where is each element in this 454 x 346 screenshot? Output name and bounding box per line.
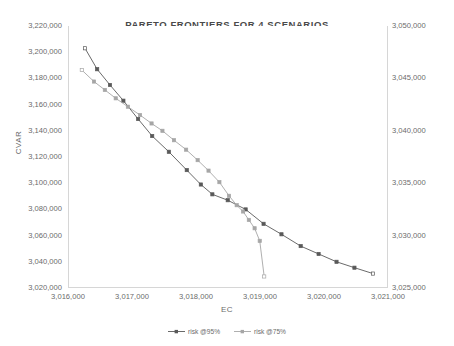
y-axis-left-tick-label: 3,200,000 [4,47,62,56]
data-point-marker [114,97,117,100]
legend-item-2[interactable]: risk @75% [234,328,286,335]
y-axis-right-tick-label: 3,050,000 [392,21,452,30]
series-line-2 [82,70,264,276]
x-axis-tick-label: 3,019,000 [225,292,295,301]
data-point-marker [235,204,238,207]
plot-area [68,26,388,288]
data-point-marker [126,105,129,108]
y-axis-left-tick-label: 3,180,000 [4,73,62,82]
y-axis-left-tick-label: 3,080,000 [4,204,62,213]
data-point-marker [172,139,175,142]
y-axis-title: CVAR [14,113,23,173]
y-axis-right-tick-label: 3,025,000 [392,283,452,292]
data-point-marker [241,210,244,213]
data-point-marker [161,129,164,132]
y-axis-right-tick-label: 3,035,000 [392,178,452,187]
y-axis-right-tick-label: 3,040,000 [392,126,452,135]
x-axis-tick-label: 3,020,000 [289,292,359,301]
y-axis-left-tick-label: 3,160,000 [4,100,62,109]
data-point-marker [262,222,265,225]
data-point-marker [185,148,188,151]
x-axis-tick-label: 3,017,000 [97,292,167,301]
data-point-marker [151,134,154,137]
data-point-marker [280,233,283,236]
legend-label: risk @95% [188,328,220,335]
x-axis-tick-label: 3,021,000 [353,292,423,301]
y-axis-left-tick-label: 3,120,000 [4,152,62,161]
data-point-marker [299,244,302,247]
chart-container: PARETO FRONTIERS FOR 4 SCENARIOS CVAR 3,… [0,0,454,346]
y-axis-left-tick-label: 3,140,000 [4,126,62,135]
data-point-marker [167,150,170,153]
data-point-marker [92,80,95,83]
chart-legend: risk @95%risk @75% [0,328,454,335]
data-point-marker [103,88,106,91]
y-axis-right-tick-label: 3,045,000 [392,73,452,82]
data-point-marker [138,113,141,116]
x-axis-tick-label: 3,018,000 [161,292,231,301]
data-point-marker [199,183,202,186]
data-point-marker [253,227,256,230]
data-point-marker [247,218,250,221]
data-point-marker [122,99,125,102]
data-point-marker [263,275,266,278]
data-point-marker [207,169,210,172]
data-point-marker [218,181,221,184]
data-point-marker [196,159,199,162]
data-point-marker [185,169,188,172]
legend-label: risk @75% [254,328,286,335]
series-line-1 [85,48,373,273]
y-axis-left-tick-label: 3,060,000 [4,231,62,240]
data-point-marker [108,83,111,86]
legend-marker-icon [168,328,185,335]
data-point-marker [335,260,338,263]
data-series-layer [69,26,389,288]
x-axis-tick-label: 3,016,000 [33,292,103,301]
data-point-marker [80,68,83,71]
data-point-marker [226,199,229,202]
data-point-marker [137,117,140,120]
y-axis-right-tick-label: 3,030,000 [392,231,452,240]
y-axis-left-tick-label: 3,040,000 [4,257,62,266]
y-axis-left-tick-label: 3,020,000 [4,283,62,292]
data-point-marker [96,68,99,71]
legend-marker-icon [234,328,251,335]
data-point-marker [227,194,230,197]
data-point-marker [258,239,261,242]
data-point-marker [353,266,356,269]
data-point-marker [317,252,320,255]
x-axis-title: EC [0,305,454,314]
data-point-marker [371,272,374,275]
data-point-marker [211,193,214,196]
data-point-marker [150,122,153,125]
y-axis-left-tick-label: 3,100,000 [4,178,62,187]
legend-item-1[interactable]: risk @95% [168,328,220,335]
y-axis-left-tick-label: 3,220,000 [4,21,62,30]
data-point-marker [83,47,86,50]
